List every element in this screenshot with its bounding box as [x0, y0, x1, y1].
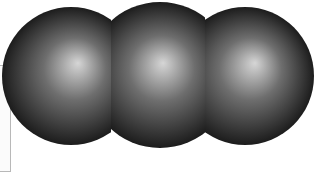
spheres-canvas — [0, 0, 329, 177]
sphere-trimer — [0, 0, 329, 177]
